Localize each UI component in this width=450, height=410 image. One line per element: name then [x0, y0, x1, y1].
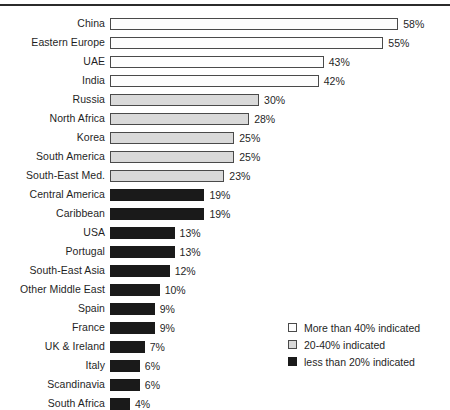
bar	[110, 208, 204, 220]
bar	[110, 379, 140, 391]
bar-value-label: 13%	[180, 246, 201, 258]
legend-item: 20-40% indicated	[288, 336, 420, 353]
bar-value-label: 28%	[254, 113, 275, 125]
bar-category-label: South America	[36, 147, 105, 166]
bar-value-label: 19%	[209, 189, 230, 201]
bar	[110, 265, 170, 277]
legend-item: less than 20% indicated	[288, 353, 420, 370]
bar-track: 6%	[110, 360, 160, 372]
bar-category-label: Caribbean	[56, 204, 105, 223]
bar-row: Other Middle East10%	[0, 280, 450, 299]
bar-track: 25%	[110, 151, 260, 163]
bar-category-label: South Africa	[48, 394, 105, 410]
bar-row: South-East Asia12%	[0, 261, 450, 280]
bar-value-label: 7%	[150, 341, 165, 353]
bar	[110, 170, 224, 182]
bar-value-label: 43%	[329, 56, 350, 68]
bar-row: South America25%	[0, 147, 450, 166]
bar-value-label: 12%	[175, 265, 196, 277]
bar-row: North Africa28%	[0, 109, 450, 128]
bar-value-label: 30%	[264, 94, 285, 106]
legend-swatch	[288, 357, 297, 366]
bar-track: 30%	[110, 94, 285, 106]
bar-row: Russia30%	[0, 90, 450, 109]
bar-value-label: 4%	[135, 398, 150, 410]
legend-swatch	[288, 323, 297, 332]
bar-category-label: UAE	[83, 52, 105, 71]
bar	[110, 322, 155, 334]
bar-row: USA13%	[0, 223, 450, 242]
legend-item: More than 40% indicated	[288, 319, 420, 336]
bar	[110, 75, 319, 87]
bar-row: Caribbean19%	[0, 204, 450, 223]
bar-row: South-East Med.23%	[0, 166, 450, 185]
bar	[110, 132, 234, 144]
bar	[110, 56, 324, 68]
bar-category-label: India	[82, 71, 105, 90]
bar	[110, 37, 383, 49]
bar-category-label: Central America	[30, 185, 105, 204]
bar-value-label: 9%	[160, 303, 175, 315]
bar-category-label: Portugal	[65, 242, 105, 261]
bar-category-label: USA	[83, 223, 105, 242]
bar-track: 9%	[110, 322, 175, 334]
bar-track: 12%	[110, 265, 196, 277]
bar-chart: China58%Eastern Europe55%UAE43%India42%R…	[0, 0, 450, 410]
bar-value-label: 58%	[403, 18, 424, 30]
legend-label: 20-40% indicated	[304, 339, 385, 351]
bar-category-label: UK & Ireland	[45, 337, 105, 356]
bar-track: 13%	[110, 246, 201, 258]
bar	[110, 189, 204, 201]
bar-value-label: 9%	[160, 322, 175, 334]
legend-label: less than 20% indicated	[304, 356, 415, 368]
bar	[110, 113, 249, 125]
header-divider	[0, 4, 450, 6]
bar	[110, 18, 398, 30]
bar-value-label: 42%	[324, 75, 345, 87]
bar	[110, 246, 175, 258]
bar-value-label: 10%	[165, 284, 186, 296]
bar-track: 4%	[110, 398, 150, 410]
bar-track: 55%	[110, 37, 409, 49]
chart-legend: More than 40% indicated20-40% indicatedl…	[288, 319, 420, 370]
bar-track: 42%	[110, 75, 345, 87]
bar-row: UAE43%	[0, 52, 450, 71]
bar	[110, 284, 160, 296]
bar-track: 19%	[110, 208, 230, 220]
bar-track: 28%	[110, 113, 275, 125]
bar-category-label: Other Middle East	[20, 280, 105, 299]
bar-value-label: 13%	[180, 227, 201, 239]
bar-value-label: 25%	[239, 132, 260, 144]
bar-category-label: South-East Med.	[26, 166, 105, 185]
bar-category-label: Eastern Europe	[31, 33, 105, 52]
bar-category-label: North Africa	[50, 109, 105, 128]
bar	[110, 398, 130, 410]
bar-row: Spain9%	[0, 299, 450, 318]
bar-value-label: 19%	[209, 208, 230, 220]
bar-category-label: Russia	[73, 90, 105, 109]
bar-track: 6%	[110, 379, 160, 391]
bar-row: Portugal13%	[0, 242, 450, 261]
bar-track: 43%	[110, 56, 350, 68]
bar-track: 23%	[110, 170, 250, 182]
bar-row: Eastern Europe55%	[0, 33, 450, 52]
bar-category-label: Spain	[78, 299, 105, 318]
bar	[110, 94, 259, 106]
bar-row: India42%	[0, 71, 450, 90]
bar-value-label: 6%	[145, 360, 160, 372]
bar-category-label: Italy	[85, 356, 105, 375]
legend-swatch	[288, 340, 297, 349]
bar-track: 19%	[110, 189, 230, 201]
bar	[110, 360, 140, 372]
bar	[110, 227, 175, 239]
bar-track: 13%	[110, 227, 201, 239]
bar-row: Korea25%	[0, 128, 450, 147]
bar-value-label: 23%	[229, 170, 250, 182]
bar-row: Central America19%	[0, 185, 450, 204]
bar-value-label: 55%	[388, 37, 409, 49]
bar-row: China58%	[0, 14, 450, 33]
bar	[110, 341, 145, 353]
bar-track: 7%	[110, 341, 165, 353]
bar-category-label: Korea	[77, 128, 105, 147]
bar	[110, 151, 234, 163]
